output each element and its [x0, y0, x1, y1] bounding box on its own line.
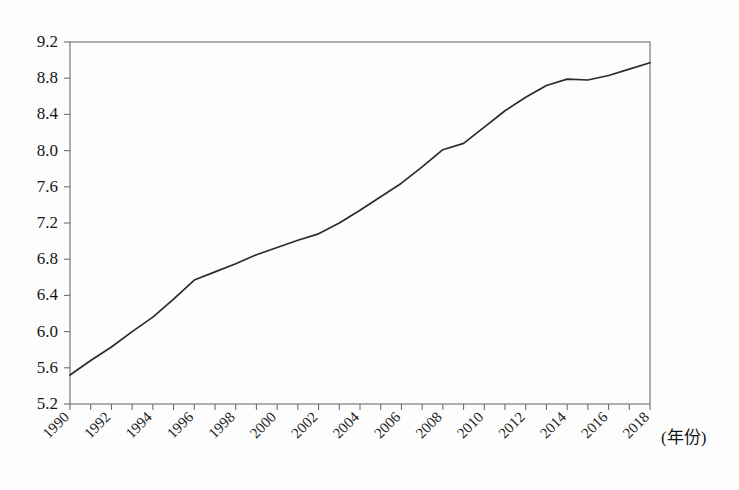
y-tick-label: 8.8	[37, 68, 58, 87]
x-axis-caption: (年份)	[661, 428, 706, 447]
y-tick-label: 6.4	[37, 285, 59, 304]
y-tick-label: 9.2	[37, 32, 58, 51]
chart-figure: 5.25.66.06.46.87.27.68.08.48.89.2 199019…	[0, 0, 739, 490]
y-tick-label: 5.6	[37, 358, 58, 377]
y-tick-label: 7.2	[37, 213, 58, 232]
y-tick-label: 7.6	[37, 177, 58, 196]
y-tick-label: 8.4	[37, 104, 59, 123]
y-tick-label: 6.8	[37, 249, 58, 268]
y-tick-label: 5.2	[37, 394, 58, 413]
chart-background	[0, 0, 739, 490]
y-tick-label: 8.0	[37, 141, 58, 160]
line-chart: 5.25.66.06.46.87.27.68.08.48.89.2 199019…	[0, 0, 739, 490]
y-tick-label: 6.0	[37, 322, 58, 341]
